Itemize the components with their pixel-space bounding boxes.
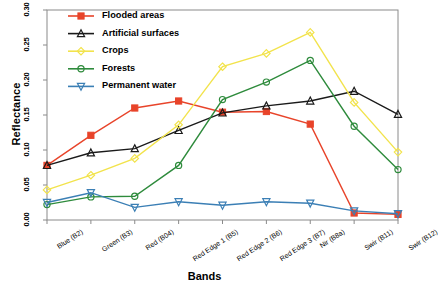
data-point <box>88 132 94 138</box>
series-line <box>47 60 398 204</box>
legend-marker <box>78 13 84 19</box>
legend-label: Permanent water <box>102 80 176 90</box>
legend-label: Forests <box>102 63 135 73</box>
legend-label: Artificial surfaces <box>102 28 179 38</box>
legend-label: Flooded areas <box>102 10 164 20</box>
data-point <box>176 98 182 104</box>
x-tick-label: Swir (B12) <box>407 228 438 252</box>
legend-label: Crops <box>102 45 129 55</box>
data-point <box>307 121 313 127</box>
data-point <box>132 105 138 111</box>
